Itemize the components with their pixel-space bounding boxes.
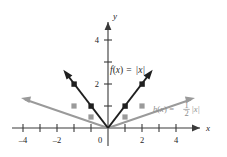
x-axis-arrowhead [192,125,200,132]
curve-h-right-ray [108,100,191,129]
y-axis-label: y [112,11,117,21]
y-axis-arrowhead [105,22,112,30]
curve-h-marker [88,114,93,119]
curve-h-marker [71,103,76,108]
x-tick-label-zero: 0 [98,135,102,145]
x-tick-label-4: 4 [174,135,179,145]
curve-f-marker [88,103,93,108]
svg-text:h(x)=: h(x)= [153,104,174,114]
curve-h-left-ray [25,100,108,129]
absolute-value-graph-figure: –4 –2 0 2 4 2 4 x y [0,0,227,157]
f-label-equals: = [126,65,131,75]
curve-h-left-arrowhead [21,97,31,104]
curve-h-marker [122,114,127,119]
h-function-label: h(x)= 1 2 |x| [153,100,200,118]
f-label-expr: |x| [136,65,145,75]
h-label-equals: = [169,104,174,114]
h-label-expr: |x| [192,104,200,114]
y-tick-label-4: 4 [95,35,100,45]
curve-f-marker [71,81,76,86]
y-tick-label-2: 2 [95,79,99,89]
x-tick-label-neg4: –4 [18,135,28,145]
plot-canvas: –4 –2 0 2 4 2 4 x y [0,0,227,157]
curve-f-marker [139,81,144,86]
f-function-label: f(x)=|x| [110,65,145,76]
x-axis-label: x [205,123,210,133]
curve-h-marker [139,103,144,108]
svg-text:f(x)=|x|: f(x)=|x| [110,65,145,76]
x-tick-label-neg2: –2 [52,135,62,145]
x-tick-label-2: 2 [140,135,144,145]
h-label-denominator: 2 [184,108,188,118]
curve-f-left-arrowhead [63,70,72,80]
curve-f-marker [122,103,127,108]
